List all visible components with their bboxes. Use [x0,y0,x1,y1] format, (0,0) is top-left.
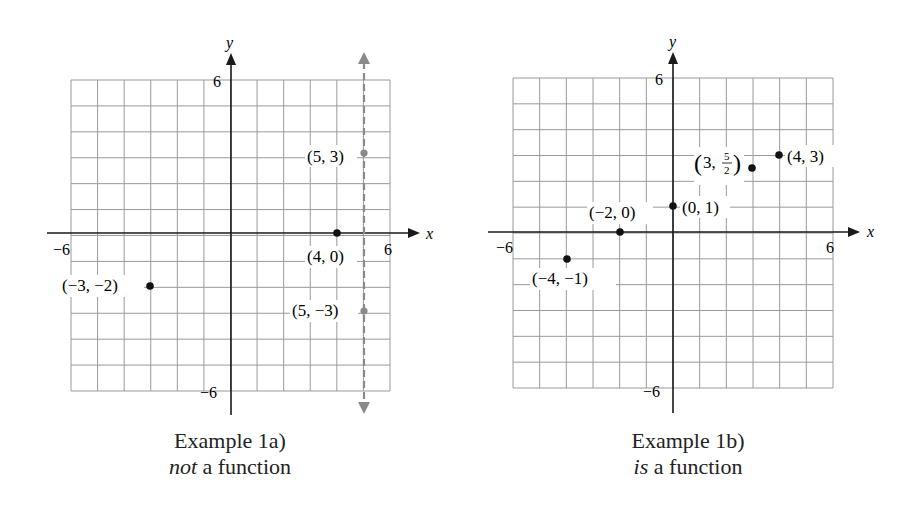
data-point [360,149,367,156]
chart-1a-svg: x y −6 6 6 −6 (5, 3) (4, 0) (−3, −2) (5,… [0,0,455,420]
tick-x-min: −6 [53,241,70,258]
data-point [748,164,756,172]
svg-text:2: 2 [724,164,730,176]
arrow-down-icon [358,402,370,414]
svg-text:(: ( [694,150,702,176]
tick-y-max: 6 [655,71,663,88]
point-label: (−4, −1) [532,269,588,288]
chart-1b-svg: x y −6 6 6 −6 (−4, −1) (−2, 0) (0, 1) ( … [455,0,911,420]
caption-title: Example 1b) [548,428,828,454]
caption-title: Example 1a) [90,428,370,454]
x-axis-arrow-icon [848,227,860,237]
point-label: (4, 3) [787,147,824,166]
svg-text:3,: 3, [703,153,716,172]
data-point [360,307,367,314]
svg-text:5: 5 [724,150,730,162]
svg-text:): ) [733,150,741,176]
data-point [616,228,624,236]
tick-y-max: 6 [213,73,221,90]
data-point [333,229,341,237]
x-axis-label: x [425,225,433,242]
y-axis-label: y [224,34,234,52]
arrow-up-icon [358,52,370,64]
tick-x-max: 6 [384,241,392,258]
tick-x-min: −6 [496,239,513,256]
data-point [669,202,677,210]
tick-x-max: 6 [826,239,834,256]
y-axis-label: y [667,33,677,51]
caption-1a: Example 1a) not a function [90,428,370,480]
x-axis-arrow-icon [408,228,420,238]
y-axis-arrow-icon [226,53,236,65]
point-label: (0, 1) [682,198,719,217]
plot-example-1b: x y −6 6 6 −6 (−4, −1) (−2, 0) (0, 1) ( … [455,0,911,420]
point-label: (−3, −2) [62,276,118,295]
point-label: (4, 0) [307,247,344,266]
plot-example-1a: x y −6 6 6 −6 (5, 3) (4, 0) (−3, −2) (5,… [0,0,455,420]
tick-y-min: −6 [200,384,217,401]
point-label: (5, 3) [307,147,344,166]
y-axis-arrow-icon [668,52,678,64]
caption-1b: Example 1b) is a function [548,428,828,480]
data-point [563,255,571,263]
caption-subtitle: not a function [90,454,370,480]
data-point [775,151,783,159]
point-label: (5, −3) [292,301,338,320]
point-label: (−2, 0) [589,203,635,222]
caption-subtitle: is a function [548,454,828,480]
x-axis-label: x [866,223,874,240]
data-point [146,282,154,290]
tick-y-min: −6 [643,383,660,400]
